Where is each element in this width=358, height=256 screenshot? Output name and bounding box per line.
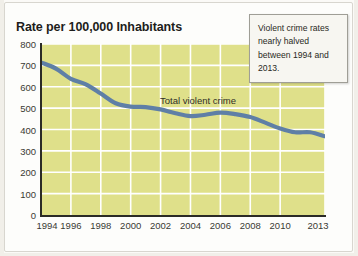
x-tick-label: 2002 [150, 220, 171, 231]
x-tick-label: 2004 [180, 220, 201, 231]
y-tick-label: 100 [20, 188, 36, 199]
x-tick-label: 2008 [240, 220, 261, 231]
chart-title: Rate per 100,000 Inhabitants [16, 20, 182, 34]
callout-text: Violent crime rates nearly halved betwee… [258, 22, 340, 75]
y-tick-label: 500 [20, 103, 36, 114]
x-tick-label: 2013 [307, 220, 328, 231]
y-tick-label: 0 [31, 210, 36, 221]
y-tick-label: 200 [20, 167, 36, 178]
x-tick-label: 2000 [120, 220, 141, 231]
y-tick-label: 300 [20, 145, 36, 156]
x-axis-tick-labels: 1994199619982000200220042006200820102013 [41, 220, 331, 234]
y-axis-line [40, 43, 42, 216]
y-tick-label: 400 [20, 124, 36, 135]
y-tick-label: 600 [20, 81, 36, 92]
scan-edge-right [354, 0, 358, 256]
x-tick-label: 1996 [60, 220, 81, 231]
y-axis-tick-labels: 8007006005004003002001000 [8, 44, 36, 215]
figure-root: Rate per 100,000 Inhabitants 80070060050… [0, 0, 358, 256]
x-tick-label: 1998 [90, 220, 111, 231]
y-tick-label: 800 [20, 39, 36, 50]
x-axis-line [40, 215, 326, 217]
x-tick-label: 2010 [270, 220, 291, 231]
y-tick-label: 700 [20, 60, 36, 71]
x-tick-label: 1994 [36, 220, 57, 231]
callout-box: Violent crime rates nearly halved betwee… [249, 14, 348, 83]
series-inline-label: Total violent crime [160, 95, 236, 106]
x-tick-label: 2006 [210, 220, 231, 231]
